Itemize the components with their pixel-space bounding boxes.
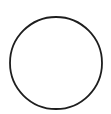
drawing-canvas (0, 0, 111, 114)
circle-outline-shape (10, 17, 102, 109)
circle-drawing (0, 0, 111, 114)
